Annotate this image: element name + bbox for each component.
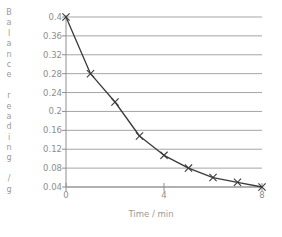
plot-area [0,0,282,237]
series-line [66,17,262,187]
x-axis-tick-label: 0 [51,191,81,200]
x-axis-tick-label: 4 [149,191,179,200]
data-point-marker [160,152,167,159]
chart-container: Balance reading /g 0.040.080.120.160.20.… [0,0,282,237]
x-axis-tick-label: 8 [247,191,277,200]
x-axis-title: Time / min [0,209,282,219]
data-point-marker [111,98,118,105]
data-point-marker [136,132,143,139]
